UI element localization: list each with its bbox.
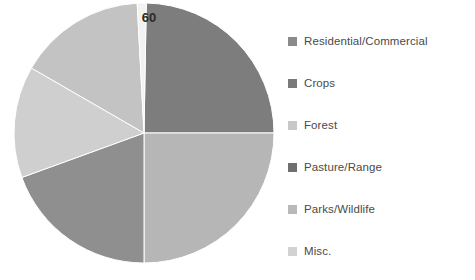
legend-swatch-icon [288,37,297,46]
legend-swatch-icon [288,205,297,214]
slice-value-label: 60 [142,10,156,25]
legend-item-label: Parks/Wildlife [304,203,375,215]
legend-item-0[interactable]: Residential/Commercial [288,33,428,49]
legend-swatch-icon [288,163,297,172]
pie-chart: 60 Residential/CommercialCropsForestPast… [0,0,475,280]
legend-item-1[interactable]: Crops [288,75,335,91]
legend-item-label: Residential/Commercial [304,35,428,47]
legend-swatch-icon [288,247,297,256]
pie-slice-crops[interactable] [144,133,274,263]
pie-svg: 60 [0,0,290,280]
pie-plot-area: 60 [0,0,290,280]
legend-item-5[interactable]: Misc. [288,243,331,259]
pie-slice-residential-commercial[interactable] [144,3,274,133]
legend-item-label: Crops [304,77,335,89]
legend-swatch-icon [288,121,297,130]
legend-item-label: Misc. [304,245,331,257]
legend-item-2[interactable]: Forest [288,117,337,133]
chart-legend: Residential/CommercialCropsForestPasture… [288,0,475,280]
legend-item-label: Pasture/Range [304,161,382,173]
legend-item-4[interactable]: Parks/Wildlife [288,201,375,217]
legend-item-label: Forest [304,119,337,131]
legend-item-3[interactable]: Pasture/Range [288,159,382,175]
pie-slice-group [14,3,274,263]
legend-swatch-icon [288,79,297,88]
